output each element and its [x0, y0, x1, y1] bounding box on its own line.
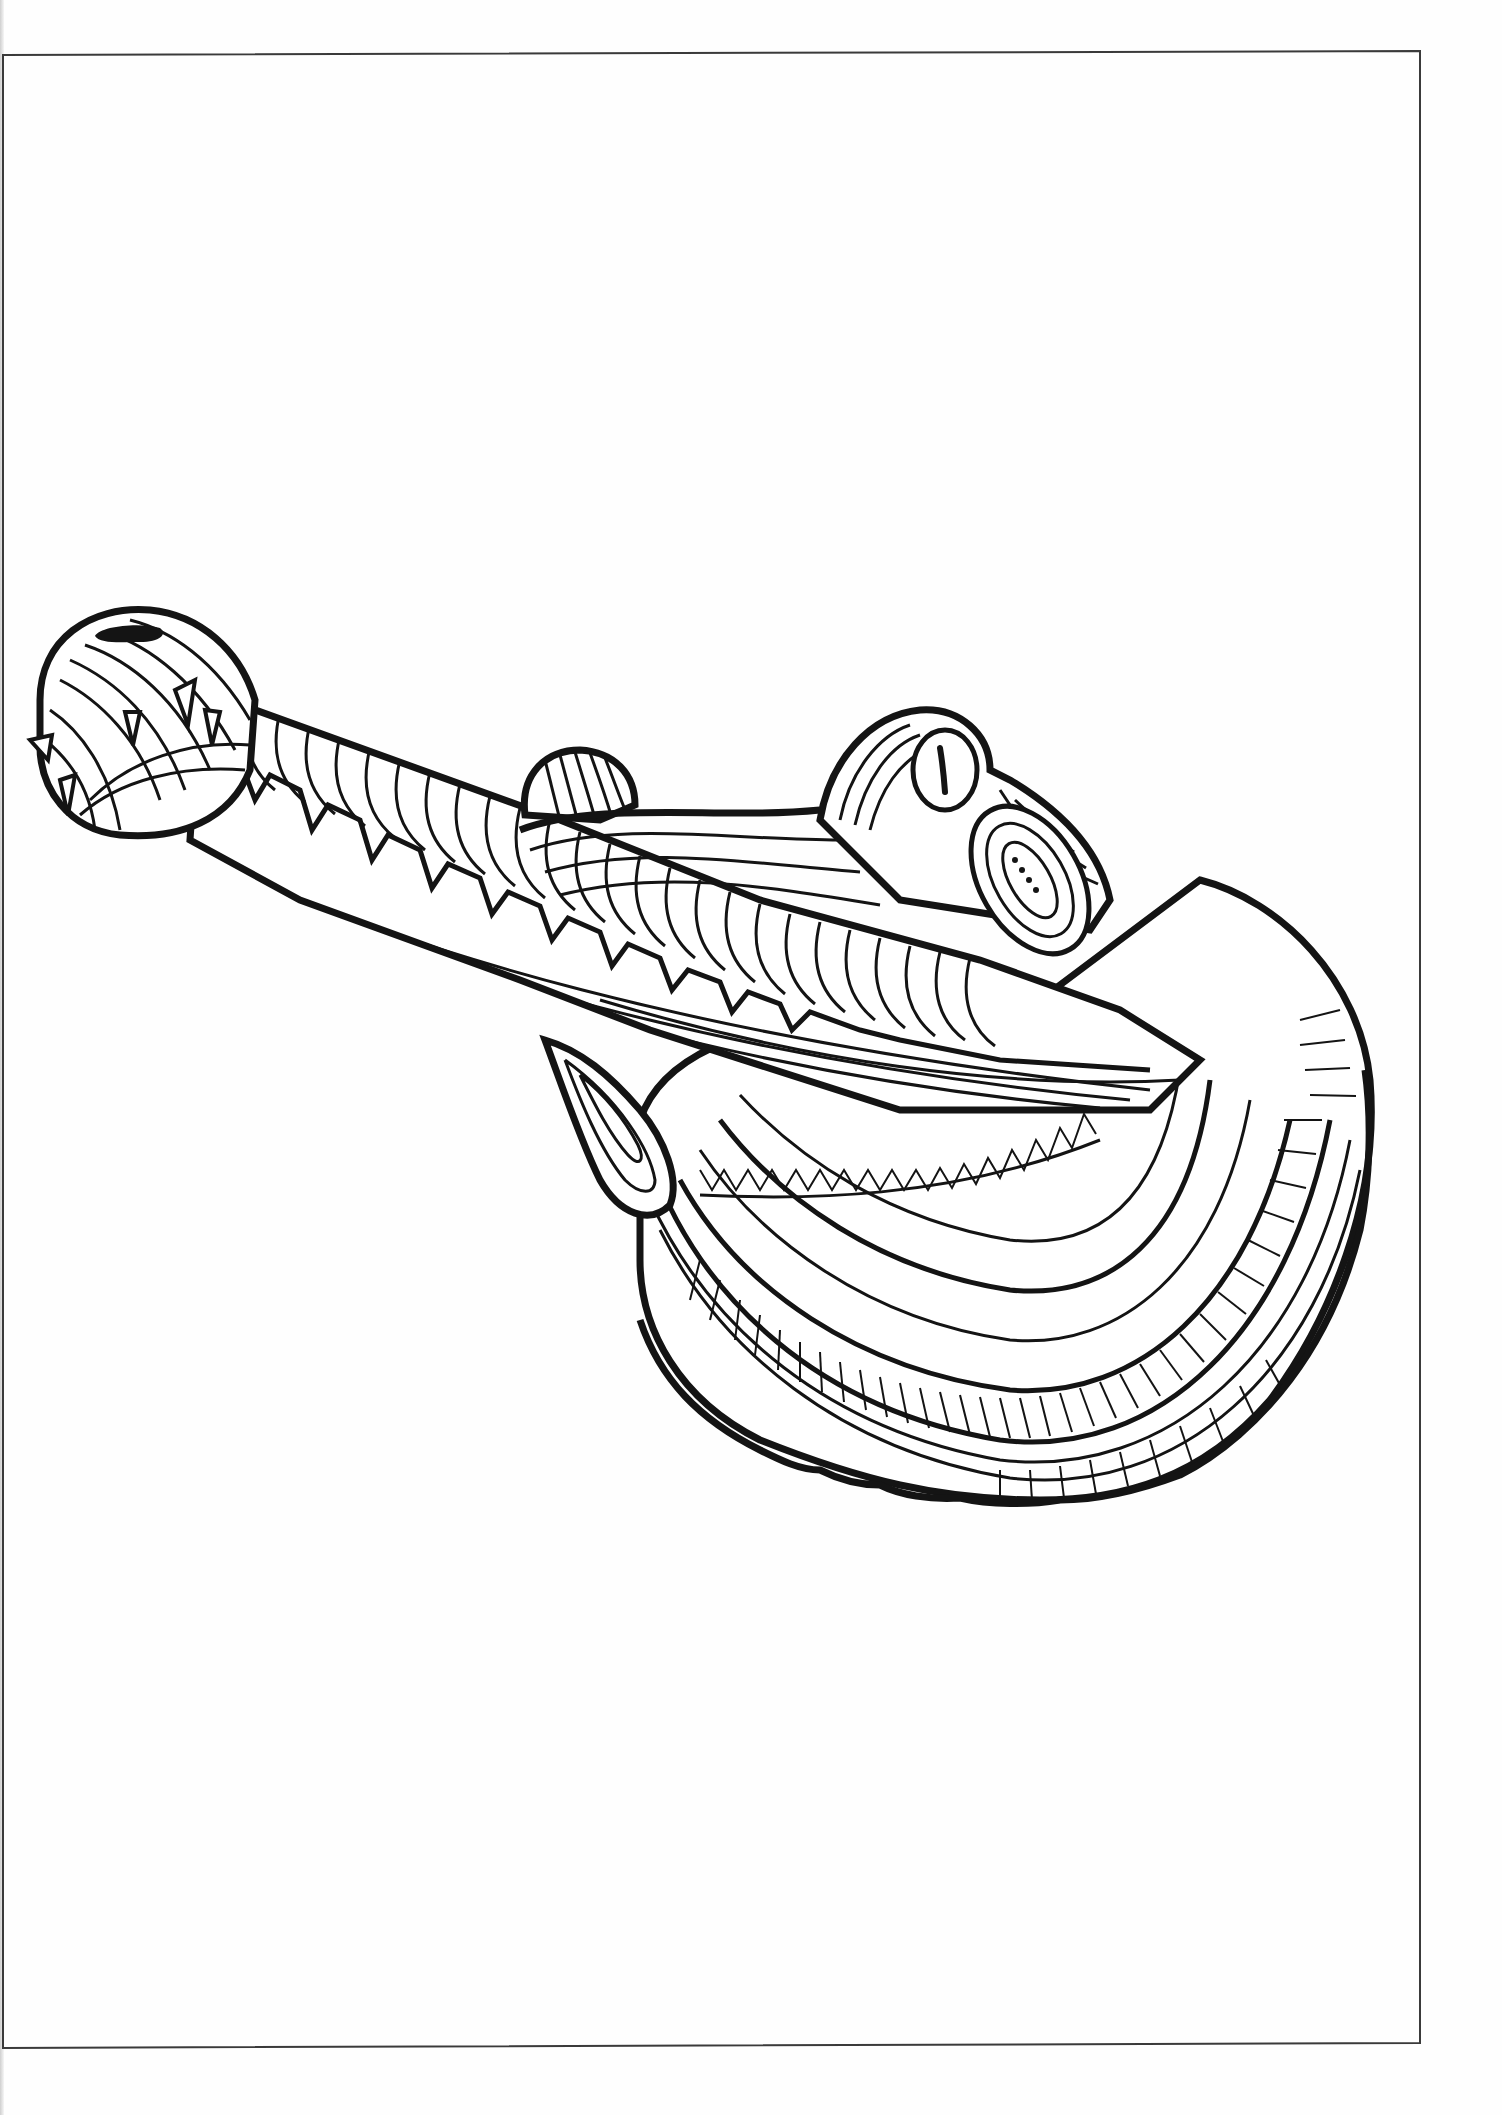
coloring-page: Gharial (line art) — [0, 0, 1502, 2115]
illustration-canvas — [0, 0, 1502, 2115]
snout-tip-bulb — [30, 610, 255, 836]
jaw-fin — [545, 1040, 673, 1215]
